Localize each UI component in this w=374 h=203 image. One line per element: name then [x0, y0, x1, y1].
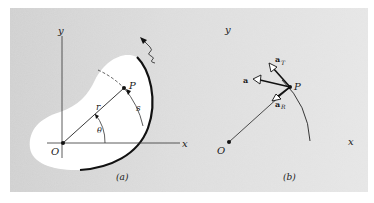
theta-label: θ	[97, 126, 102, 135]
origin-point-a	[61, 141, 65, 145]
arc-length-label: s	[136, 103, 141, 113]
tangential-accel-label: a	[275, 54, 280, 64]
origin-point-b	[227, 140, 231, 144]
point-p-label-b: P	[293, 81, 301, 92]
radius-label: r	[96, 102, 101, 112]
origin-label-b: O	[217, 145, 225, 156]
y-axis-label-a: y	[57, 25, 64, 36]
point-p-label-a: P	[128, 80, 136, 91]
total-accel-label: a	[243, 75, 248, 85]
x-axis-label-a: x	[182, 138, 188, 149]
origin-label-a: O	[51, 146, 59, 157]
caption-a: (a)	[116, 172, 129, 182]
rigid-body-rotation-figure: y x O P r s θ (a) y x O P a T a a	[0, 0, 374, 203]
radial-accel-label: a	[275, 99, 280, 109]
x-axis-label-b: x	[348, 136, 354, 147]
point-p-a	[122, 86, 126, 90]
y-axis-label-b: y	[224, 24, 231, 35]
point-p-b	[288, 85, 292, 89]
radial-accel-subscript: R	[280, 103, 286, 110]
caption-b: (b)	[283, 172, 296, 182]
